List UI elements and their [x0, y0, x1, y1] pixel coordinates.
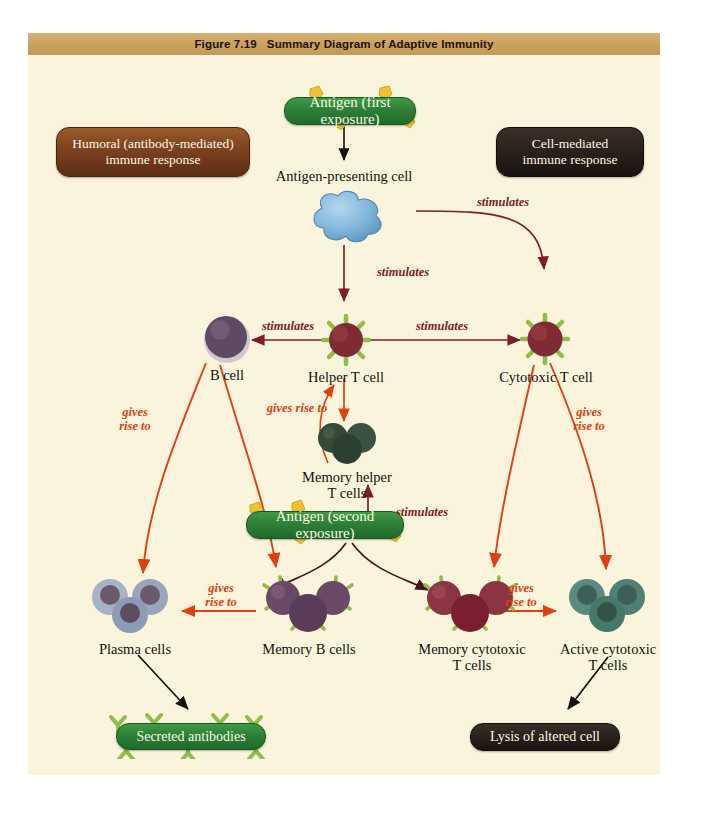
secreted-antibodies-box: Secreted antibodies — [116, 723, 266, 750]
cytotoxic-t-cell-label: Cytotoxic T cell — [490, 369, 602, 385]
lysis-box: Lysis of altered cell — [470, 723, 620, 751]
antigen-presenting-cell-label: Antigen-presenting cell — [244, 168, 444, 184]
antigen-first-box: Antigen (first exposure) — [284, 97, 416, 125]
antigen-second-box: Antigen (second exposure) — [246, 511, 404, 539]
secreted-antibodies-text: Secreted antibodies — [136, 729, 245, 745]
memory-helper-t-cells-label: Memory helper T cells — [282, 469, 412, 501]
antigen-second-text: Antigen (second exposure) — [247, 508, 403, 542]
stimulates-label-helper-cytotoxic: stimulates — [396, 319, 488, 333]
humoral-pathway-text: Humoral (antibody-mediated) immune respo… — [72, 136, 234, 168]
gives-rise-to-label-memoryb-plasma: gives rise to — [180, 581, 262, 609]
cell-mediated-pathway-text: Cell-mediated immune response — [523, 136, 618, 168]
antigen-presenting-cell — [300, 188, 390, 248]
lysis-text: Lysis of altered cell — [490, 729, 600, 745]
b-cell-label: B cell — [177, 367, 277, 383]
gives-rise-to-label-cytotoxic: gives rise to — [552, 405, 626, 433]
figure-title: Figure 7.19 Summary Diagram of Adaptive … — [28, 33, 660, 55]
memory-cytotoxic-t-cells-label: Memory cytotoxic T cells — [404, 641, 540, 673]
memory-b-cells — [256, 571, 360, 641]
helper-t-cell-label: Helper T cell — [294, 369, 398, 385]
gives-rise-to-label-bcell: gives rise to — [98, 405, 172, 433]
antigen-first-group: Antigen (first exposure) — [276, 85, 422, 133]
stimulates-label-apc-cytotoxic: stimulates — [458, 195, 548, 209]
active-cytotoxic-t-cells-label: Active cytotoxic T cells — [546, 641, 670, 673]
antigen-first-text: Antigen (first exposure) — [285, 94, 415, 128]
plasma-cells — [88, 575, 174, 637]
humoral-pathway-label: Humoral (antibody-mediated) immune respo… — [56, 127, 250, 177]
gives-rise-to-label-memorycyto-active: gives rise to — [480, 581, 562, 609]
antigen-second-group: Antigen (second exposure) — [224, 499, 420, 549]
plasma-cells-label: Plasma cells — [76, 641, 194, 657]
stimulates-label-helper-b: stimulates — [242, 319, 334, 333]
cell-mediated-pathway-label: Cell-mediated immune response — [496, 127, 644, 177]
stimulates-label-apc-helper: stimulates — [358, 265, 448, 279]
cytotoxic-t-cell — [518, 311, 572, 367]
secreted-antibodies-group: Secreted antibodies — [104, 711, 284, 759]
active-cytotoxic-t-cells — [566, 575, 650, 637]
gives-rise-to-label-helper-memory: gives rise to — [242, 401, 352, 415]
memory-helper-t-cells — [316, 421, 378, 467]
memory-b-cells-label: Memory B cells — [246, 641, 372, 657]
figure-panel: Figure 7.19 Summary Diagram of Adaptive … — [28, 33, 660, 775]
